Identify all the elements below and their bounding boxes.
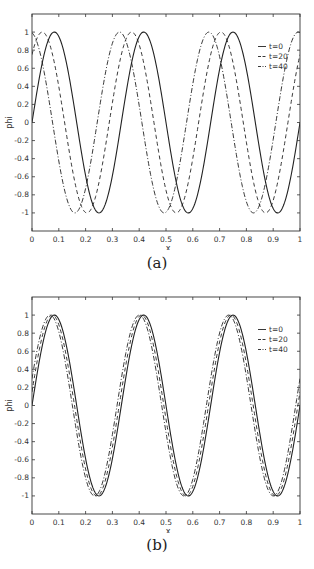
y-tick-label: -0.6 — [14, 455, 29, 464]
x-tick-label: 0 — [30, 518, 35, 527]
x-tick-label: 0.1 — [53, 518, 65, 527]
legend-entry: t=40 — [269, 62, 288, 71]
y-tick-label: 0 — [24, 401, 29, 410]
legend-entry: t=0 — [269, 42, 283, 51]
legend: t=0t=20t=40 — [258, 325, 288, 354]
y-tick-label: 1 — [24, 28, 29, 37]
legend-entry: t=20 — [269, 335, 288, 344]
figure-panel-b: 00.10.20.30.40.50.60.70.80.9110.80.60.40… — [0, 283, 314, 569]
x-tick-label: 0.1 — [53, 235, 65, 244]
x-tick-label: 0.4 — [133, 518, 145, 527]
x-tick-label: 1 — [298, 235, 303, 244]
caption-a: (a) — [0, 254, 314, 272]
y-tick-label: -0.4 — [14, 154, 29, 163]
x-tick-label: 0.3 — [106, 235, 118, 244]
plot-a: 00.10.20.30.40.50.60.70.80.9110.80.60.40… — [0, 0, 314, 250]
y-tick-label: 0.8 — [17, 46, 29, 55]
x-axis-label: x — [166, 244, 171, 250]
y-tick-label: 0.6 — [17, 64, 29, 73]
x-tick-label: 0.5 — [160, 235, 172, 244]
x-tick-label: 0 — [30, 235, 35, 244]
y-tick-label: -1 — [22, 491, 30, 500]
x-tick-label: 0.8 — [240, 235, 252, 244]
y-tick-label: -0.8 — [14, 473, 29, 482]
y-axis-label: phi — [5, 116, 14, 128]
x-tick-label: 0.4 — [133, 235, 145, 244]
x-tick-label: 0.5 — [160, 518, 172, 527]
y-tick-label: 0.4 — [17, 365, 29, 374]
x-tick-label: 0.9 — [267, 235, 279, 244]
x-tick-label: 0.6 — [187, 235, 199, 244]
y-tick-label: -0.4 — [14, 437, 29, 446]
y-tick-label: -1 — [22, 208, 30, 217]
y-tick-label: 0 — [24, 118, 29, 127]
y-tick-label: 0.2 — [17, 383, 29, 392]
x-tick-label: 0.7 — [214, 235, 226, 244]
y-tick-label: 1 — [24, 311, 29, 320]
y-axis-label: phi — [5, 399, 14, 411]
y-tick-label: -0.8 — [14, 190, 29, 199]
x-tick-label: 0.2 — [80, 518, 92, 527]
legend: t=0t=20t=40 — [258, 42, 288, 71]
figure-panel-a: 00.10.20.30.40.50.60.70.80.9110.80.60.40… — [0, 0, 314, 285]
legend-entry: t=20 — [269, 52, 288, 61]
plot-b: 00.10.20.30.40.50.60.70.80.9110.80.60.40… — [0, 283, 314, 533]
caption-b: (b) — [0, 536, 314, 554]
legend-entry: t=40 — [269, 345, 288, 354]
y-tick-label: -0.6 — [14, 172, 29, 181]
x-tick-label: 1 — [298, 518, 303, 527]
x-tick-label: 0.9 — [267, 518, 279, 527]
y-tick-label: 0.6 — [17, 347, 29, 356]
y-tick-label: 0.2 — [17, 100, 29, 109]
series-t0 — [32, 32, 300, 213]
x-axis-label: x — [166, 527, 171, 533]
y-tick-label: -0.2 — [14, 419, 29, 428]
legend-entry: t=0 — [269, 325, 283, 334]
y-tick-label: 0.4 — [17, 82, 29, 91]
x-tick-label: 0.2 — [80, 235, 92, 244]
x-tick-label: 0.6 — [187, 518, 199, 527]
x-tick-label: 0.7 — [214, 518, 226, 527]
x-tick-label: 0.3 — [106, 518, 118, 527]
y-tick-label: -0.2 — [14, 136, 29, 145]
y-tick-label: 0.8 — [17, 329, 29, 338]
x-tick-label: 0.8 — [240, 518, 252, 527]
